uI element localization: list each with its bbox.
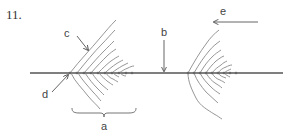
label-b: b <box>161 26 167 38</box>
diagram-root: 11. <box>0 0 292 138</box>
right-dots <box>187 72 238 75</box>
arrow-d <box>52 75 68 92</box>
right-upper-waves <box>188 30 232 73</box>
wave-diagram <box>0 0 292 138</box>
label-a: a <box>101 120 107 132</box>
brace-a <box>72 108 136 117</box>
left-upper-waves <box>70 20 134 73</box>
arrow-c <box>77 36 88 50</box>
label-c: c <box>64 27 70 39</box>
left-lower-waves <box>71 73 126 109</box>
label-d: d <box>42 88 48 100</box>
right-lower-waves <box>188 73 230 119</box>
label-e: e <box>220 5 226 17</box>
